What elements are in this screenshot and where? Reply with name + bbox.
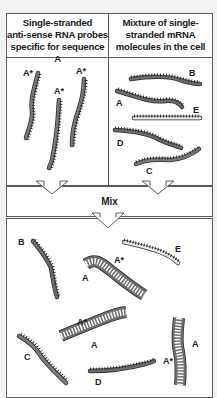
probe-strand-2: A* — [49, 86, 64, 170]
probe-label: A* — [163, 356, 173, 366]
mrna-strand-c: C — [136, 147, 199, 176]
molecule-label: C — [146, 166, 153, 176]
molecule-label: E — [193, 105, 199, 115]
mrna-strand-d-unbound: D — [90, 359, 154, 387]
molecule-label: A — [116, 98, 123, 108]
target-label: A — [91, 340, 98, 350]
probe-strand-3: A* — [72, 66, 86, 146]
target-label: A — [192, 339, 199, 349]
mrna-strand-d: D — [115, 128, 182, 148]
mrna-strand-b-unbound: B — [18, 237, 59, 297]
mrna-strand-a: A — [116, 89, 183, 108]
mrna-strand-c-unbound: C — [19, 334, 68, 383]
probe-label: A* — [54, 86, 64, 96]
probe-label: A* — [77, 317, 87, 327]
molecule-label: C — [24, 352, 31, 362]
probe-label: A* — [114, 255, 124, 265]
molecule-label: B — [189, 68, 196, 78]
target-label: A — [82, 273, 89, 283]
molecule-label: D — [117, 138, 124, 148]
mrna-strand-e: E — [134, 105, 200, 118]
molecule-label: D — [95, 377, 102, 387]
molecule-label: E — [175, 244, 181, 254]
probe-strand-1: A* — [23, 68, 40, 140]
molecule-label: B — [18, 237, 25, 247]
probe-label: A* — [23, 68, 33, 78]
arrow-down-icon — [92, 213, 124, 228]
hybrid-duplex-3: A A* — [163, 318, 199, 385]
mrna-strand-b: B — [131, 68, 200, 84]
mrna-strand-e-unbound: E — [124, 240, 181, 263]
hybrid-duplex-2: A* A — [61, 312, 126, 350]
arrow-down-icon — [36, 181, 68, 194]
probe-label: A* — [76, 66, 86, 76]
arrow-down-icon — [142, 181, 174, 194]
hybrid-duplex-1: A* A — [82, 255, 144, 295]
